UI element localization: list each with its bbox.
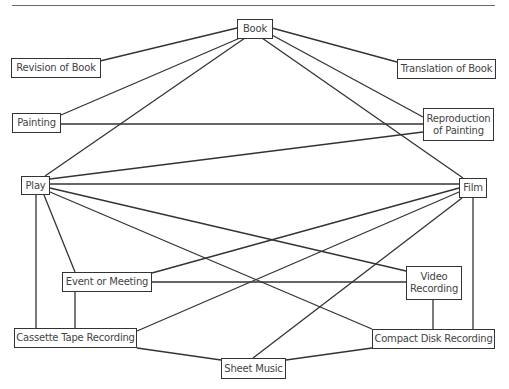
edge-cassette-sheet	[137, 348, 221, 360]
node-label: Compact Disk Recording	[374, 333, 492, 345]
node-sheet: Sheet Music	[221, 358, 286, 379]
edge-film-event	[152, 188, 459, 273]
node-painting: Painting	[12, 113, 61, 133]
edge-book-revision	[100, 28, 237, 61]
node-label: Sheet Music	[224, 363, 282, 375]
edge-play-video	[50, 188, 406, 271]
edge-play-cd	[50, 192, 372, 329]
node-label: Event or Meeting	[66, 276, 148, 288]
relationship-diagram: BookRevision of BookTranslation of BookP…	[0, 0, 509, 389]
node-label: Play	[25, 180, 45, 192]
node-label: Painting	[17, 117, 56, 129]
edge-film-cassette	[137, 192, 459, 331]
node-film: Film	[459, 178, 487, 198]
node-cd: Compact Disk Recording	[372, 329, 495, 349]
node-translation: Translation of Book	[397, 59, 496, 79]
node-reproduction: Reproduction of Painting	[423, 108, 494, 141]
node-event: Event or Meeting	[62, 272, 152, 292]
node-label: Translation of Book	[401, 63, 493, 75]
node-label: Video Recording	[410, 271, 458, 295]
node-label: Film	[463, 182, 483, 194]
edge-cd-sheet	[286, 348, 372, 360]
node-video: Video Recording	[406, 266, 462, 300]
node-book: Book	[237, 19, 273, 39]
node-label: Cassette Tape Recording	[16, 332, 135, 344]
node-label: Book	[243, 23, 267, 35]
node-cassette: Cassette Tape Recording	[14, 328, 137, 348]
node-revision: Revision of Book	[11, 58, 101, 78]
node-play: Play	[21, 176, 50, 195]
edge-play-reproduction	[50, 132, 423, 179]
node-label: Reproduction of Painting	[427, 113, 491, 137]
node-label: Revision of Book	[16, 62, 95, 74]
edge-play-event	[44, 195, 75, 272]
